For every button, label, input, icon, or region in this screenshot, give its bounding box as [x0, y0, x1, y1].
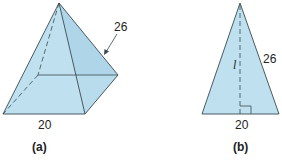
diagram-svg: 26 20 (a) l 26 20 (b) — [0, 0, 282, 161]
caption-a: (a) — [32, 140, 47, 154]
edge-label: 26 — [114, 20, 128, 34]
side-label: 26 — [263, 52, 277, 66]
caption-b: (b) — [233, 140, 248, 154]
base-label: 20 — [235, 118, 249, 132]
edge-arrow-icon — [106, 34, 117, 52]
diagram-canvas: 26 20 (a) l 26 20 (b) — [0, 0, 282, 161]
triangle-figure: l 26 20 (b) — [202, 3, 279, 154]
base-label: 20 — [38, 118, 52, 132]
pyramid-figure: 26 20 (a) — [3, 3, 128, 154]
arrowhead-icon — [104, 49, 109, 55]
